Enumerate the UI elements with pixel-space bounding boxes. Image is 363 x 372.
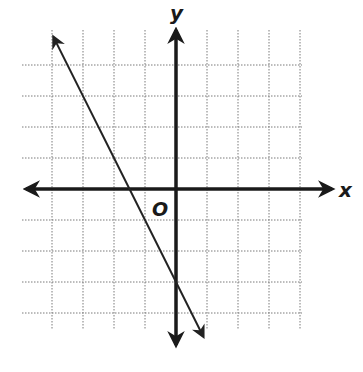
x-axis-label: x <box>338 178 353 202</box>
grid-lines <box>22 30 302 330</box>
plotted-line <box>54 37 204 336</box>
line-series <box>54 37 204 336</box>
coordinate-plane: x y O <box>0 0 363 372</box>
origin-label: O <box>152 198 168 220</box>
y-axis-label: y <box>170 1 184 25</box>
axes <box>26 30 332 345</box>
